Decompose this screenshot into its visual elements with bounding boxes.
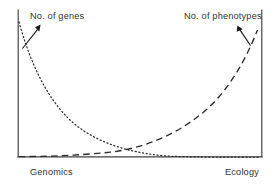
series-curve-genes — [19, 22, 260, 157]
genes-pointer-arrowhead — [35, 25, 41, 32]
chart-figure: No. of genes No. of phenotypes Genomics … — [0, 0, 280, 189]
series-label-phenotypes: No. of phenotypes — [184, 11, 262, 22]
phenotypes-pointer-shaft — [240, 29, 251, 45]
x-axis-label-ecology: Ecology — [225, 167, 259, 178]
chart-canvas — [0, 0, 280, 189]
phenotypes-pointer-arrow — [237, 25, 251, 45]
genes-pointer-arrow — [23, 25, 41, 49]
series-curve-phenotypes — [19, 30, 258, 157]
plot-frame — [18, 10, 262, 157]
series-label-genes: No. of genes — [30, 11, 84, 22]
genes-pointer-shaft — [23, 29, 39, 49]
x-axis-label-genomics: Genomics — [30, 167, 73, 178]
phenotypes-pointer-arrowhead — [237, 25, 243, 31]
